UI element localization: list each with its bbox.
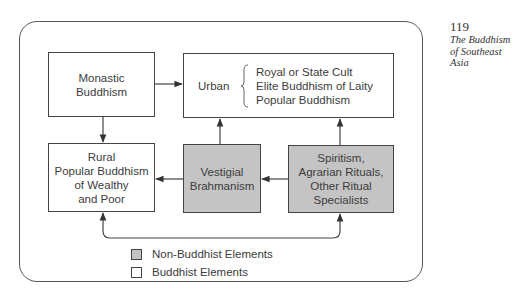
- node-line: Specialists: [298, 193, 383, 207]
- margin-note: 119 The Buddhism of Southeast Asia: [450, 20, 512, 69]
- node-line: Agrarian Rituals,: [298, 165, 383, 179]
- node-rural-popular-buddhism: Rural Popular Buddhism of Wealthy and Po…: [48, 143, 155, 212]
- node-urban: Urban Royal or State Cult Elite Buddhism…: [183, 53, 394, 118]
- running-title: The Buddhism of Southeast Asia: [450, 34, 512, 69]
- legend-item-non-buddhist: Non-Buddhist Elements: [131, 248, 273, 260]
- node-line: Rural: [55, 150, 149, 164]
- legend-label: Buddhist Elements: [152, 266, 248, 278]
- urban-sub-item: Popular Buddhism: [256, 93, 373, 107]
- running-title-line: The Buddhism: [450, 34, 512, 46]
- node-line: Brahmanism: [190, 179, 255, 193]
- white-swatch-icon: [131, 267, 142, 278]
- node-line: Popular Buddhism: [55, 164, 149, 178]
- legend-item-buddhist: Buddhist Elements: [131, 266, 248, 278]
- node-line: Vestigial: [190, 165, 255, 179]
- page-number: 119: [450, 20, 512, 34]
- running-title-line: Asia: [450, 57, 512, 69]
- node-line: Buddhism: [76, 85, 127, 99]
- urban-sub-item: Royal or State Cult: [256, 65, 373, 79]
- curly-brace-icon: [240, 64, 250, 108]
- node-spiritism: Spiritism, Agrarian Rituals, Other Ritua…: [288, 145, 394, 213]
- node-line: Other Ritual: [298, 179, 383, 193]
- urban-sub-list: Royal or State Cult Elite Buddhism of La…: [256, 65, 373, 107]
- running-title-line: of Southeast: [450, 46, 512, 58]
- node-line: and Poor: [55, 192, 149, 206]
- legend-label: Non-Buddhist Elements: [152, 248, 273, 260]
- node-line: Monastic: [76, 71, 127, 85]
- node-line: Spiritism,: [298, 151, 383, 165]
- node-line: of Wealthy: [55, 178, 149, 192]
- node-vestigial-brahmanism: Vestigial Brahmanism: [183, 144, 261, 213]
- urban-label: Urban: [198, 79, 240, 93]
- gray-swatch-icon: [131, 249, 142, 260]
- node-monastic-buddhism: Monastic Buddhism: [48, 52, 155, 117]
- urban-sub-item: Elite Buddhism of Laity: [256, 79, 373, 93]
